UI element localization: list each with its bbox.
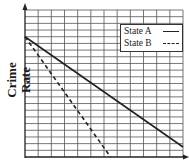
legend-item-state-b: State B (121, 37, 182, 49)
legend: State A State B (120, 24, 183, 52)
legend-item-state-a: State A (121, 25, 182, 37)
dashed-line-icon (163, 43, 179, 44)
x-axis-arrow-icon (183, 155, 189, 160)
y-axis-arrow-icon (23, 3, 28, 10)
y-axis-label: Crime Rate (5, 50, 19, 110)
legend-label: State A (124, 26, 152, 36)
solid-line-icon (163, 31, 179, 32)
legend-label: State B (124, 38, 152, 48)
